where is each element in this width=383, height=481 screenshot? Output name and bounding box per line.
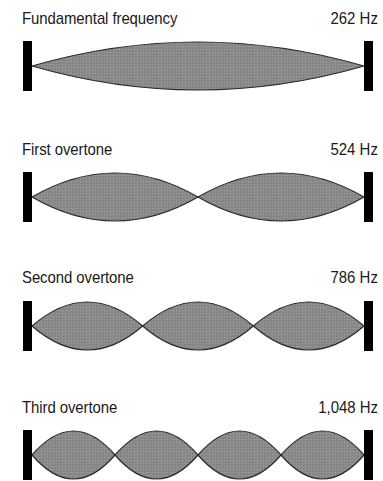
wave-loop [115, 431, 198, 479]
right-fixed-end-bar [364, 301, 373, 351]
right-fixed-end-bar [364, 41, 373, 91]
wave-loop [253, 302, 364, 350]
wave-loop [32, 42, 364, 90]
harmonic-label: First overtone [22, 140, 112, 160]
left-fixed-end-bar [23, 172, 32, 222]
frequency-label: 786 Hz [331, 268, 378, 288]
frequency-label: 524 Hz [331, 140, 378, 160]
harmonic-label: Third overtone [22, 398, 117, 418]
wave-loop [32, 173, 198, 221]
right-fixed-end-bar [364, 430, 373, 480]
wave-loop [281, 431, 364, 479]
wave-loop [143, 302, 254, 350]
harmonic-label: Second overtone [22, 268, 134, 288]
left-fixed-end-bar [23, 430, 32, 480]
wave-loop [32, 302, 143, 350]
right-fixed-end-bar [364, 172, 373, 222]
left-fixed-end-bar [23, 301, 32, 351]
wave-loop [32, 431, 115, 479]
left-fixed-end-bar [23, 41, 32, 91]
wave-loop [198, 431, 281, 479]
harmonic-label: Fundamental frequency [22, 9, 177, 29]
wave-loop [198, 173, 364, 221]
frequency-label: 1,048 Hz [318, 398, 378, 418]
frequency-label: 262 Hz [331, 9, 378, 29]
